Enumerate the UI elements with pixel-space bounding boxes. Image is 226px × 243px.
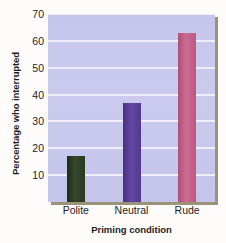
plot-area [48,14,215,202]
bar-polite [67,156,85,202]
y-tick-label-30: 30 [18,115,44,127]
y-tick-label-50: 50 [18,62,44,74]
x-category-label-rude: Rude [175,204,200,216]
x-axis-category-labels: PoliteNeutralRude [48,204,215,220]
y-tick-label-20: 20 [18,142,44,154]
y-tick-label-10: 10 [18,169,44,181]
x-category-label-polite: Polite [63,204,89,216]
gridline-70 [48,14,215,15]
bar-rude [178,33,196,202]
y-tick-label-60: 60 [18,35,44,47]
x-axis-title: Priming condition [48,224,215,235]
bar-chart-figure: Percentage who interrupted 1020304050607… [0,0,226,243]
y-tick-label-40: 40 [18,89,44,101]
y-tick-label-70: 70 [18,8,44,20]
bar-neutral [123,103,141,202]
x-category-label-neutral: Neutral [115,204,149,216]
y-axis-tick-labels: 10203040506070 [16,14,44,202]
